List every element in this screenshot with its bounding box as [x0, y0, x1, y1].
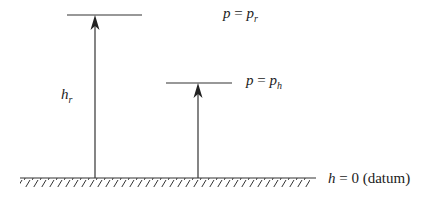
label-rhs: p — [246, 5, 254, 21]
label-var: p — [223, 5, 231, 21]
label-eq: = — [231, 5, 247, 21]
ground-hatching — [20, 178, 310, 187]
label-eq: = — [254, 72, 270, 88]
label-sub: r — [69, 94, 73, 105]
height-label: hr — [61, 86, 72, 105]
mid-pressure-label: p = ph — [246, 72, 282, 91]
datum-label: h = 0 (datum) — [328, 170, 410, 187]
label-rhs: p — [269, 72, 277, 88]
label-sub: r — [254, 13, 258, 24]
top-pressure-label: p = pr — [223, 5, 258, 24]
label-rest: = 0 (datum) — [336, 170, 411, 186]
label-var: h — [328, 170, 336, 186]
label-sub: h — [277, 80, 282, 91]
label-var: h — [61, 86, 69, 102]
label-var: p — [246, 72, 254, 88]
